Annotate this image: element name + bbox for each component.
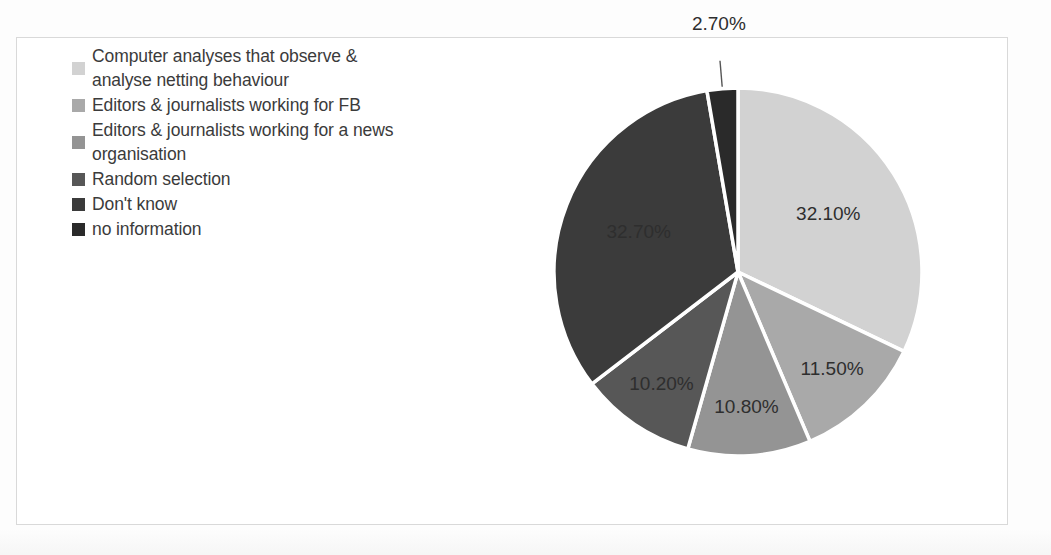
- legend-item-label: Random selection: [92, 167, 230, 191]
- legend-item-no-information[interactable]: no information: [72, 217, 402, 241]
- legend-item-computer-analyses[interactable]: Computer analyses that observe & analyse…: [72, 44, 402, 92]
- legend-swatch-icon: [72, 136, 85, 149]
- legend-item-label: Don't know: [92, 192, 177, 216]
- legend-item-random-selection[interactable]: Random selection: [72, 167, 402, 191]
- scan-page-shadow: [0, 529, 1051, 555]
- chart-legend: Computer analyses that observe & analyse…: [72, 44, 402, 242]
- legend-swatch-icon: [72, 223, 85, 236]
- legend-swatch-icon: [72, 62, 85, 75]
- legend-item-dont-know[interactable]: Don't know: [72, 192, 402, 216]
- legend-swatch-icon: [72, 173, 85, 186]
- legend-item-label: Editors & journalists working for FB: [92, 93, 361, 117]
- legend-item-label: no information: [92, 217, 202, 241]
- legend-swatch-icon: [72, 99, 85, 112]
- legend-item-label: Computer analyses that observe & analyse…: [92, 44, 402, 92]
- legend-item-label: Editors & journalists working for a news…: [92, 118, 402, 166]
- legend-swatch-icon: [72, 198, 85, 211]
- legend-item-editors-fb[interactable]: Editors & journalists working for FB: [72, 93, 402, 117]
- legend-item-editors-news-org[interactable]: Editors & journalists working for a news…: [72, 118, 402, 166]
